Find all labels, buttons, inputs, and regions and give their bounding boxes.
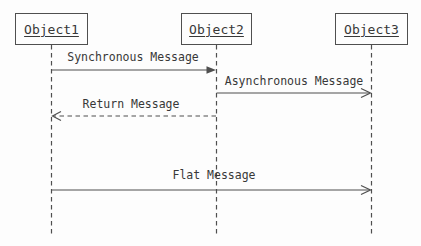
asynchronous-message-label: Asynchronous Message — [225, 74, 363, 88]
synchronous-message-filled-arrowhead-icon — [207, 66, 217, 74]
sequence-diagram: Object1 Object2 Object3 Synchronous Mess… — [0, 0, 421, 246]
synchronous-message-label: Synchronous Message — [67, 50, 199, 64]
object-box-object3: Object3 — [335, 13, 408, 45]
return-message-label: Return Message — [83, 97, 180, 111]
object-box-object2: Object2 — [181, 13, 252, 45]
object1-label: Object1 — [24, 22, 79, 37]
object3-label: Object3 — [344, 22, 399, 37]
flat-message-label: Flat Message — [172, 168, 255, 182]
object2-label: Object2 — [189, 22, 244, 37]
object-box-object1: Object1 — [15, 13, 88, 45]
